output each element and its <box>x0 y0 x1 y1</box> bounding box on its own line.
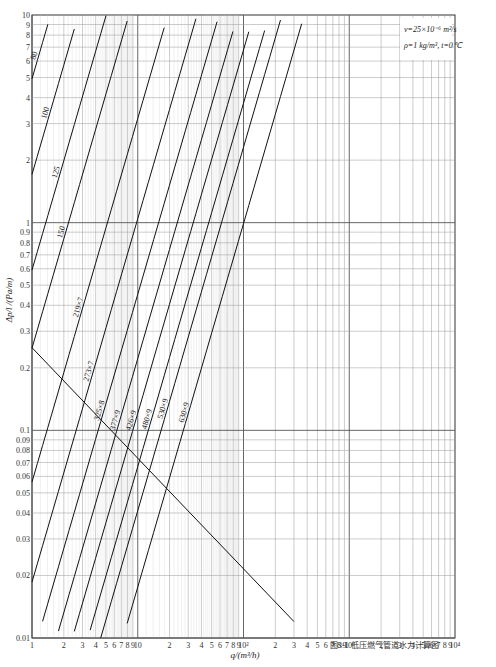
svg-text:6: 6 <box>112 641 116 650</box>
svg-text:5: 5 <box>315 641 319 650</box>
svg-text:0.7: 0.7 <box>20 251 30 260</box>
svg-text:0.06: 0.06 <box>16 472 30 481</box>
svg-text:4: 4 <box>305 641 309 650</box>
svg-text:ρ=1 kg/m³, t=0℃: ρ=1 kg/m³, t=0℃ <box>403 41 463 50</box>
svg-text:10: 10 <box>22 11 30 20</box>
svg-text:8: 8 <box>26 31 30 40</box>
svg-text:8: 8 <box>126 641 130 650</box>
svg-text:3: 3 <box>186 641 190 650</box>
svg-text:8: 8 <box>443 641 447 650</box>
svg-text:2: 2 <box>168 641 172 650</box>
svg-text:1: 1 <box>30 641 34 650</box>
pipe-lines <box>32 16 302 638</box>
svg-text:2: 2 <box>62 641 66 650</box>
svg-text:0.03: 0.03 <box>16 535 30 544</box>
condition-note: ν=25×10⁻⁶ m²/s ρ=1 kg/m³, t=0℃ <box>400 18 463 60</box>
x-axis-label: q/(m³/h) <box>230 650 259 660</box>
figure-caption: 图3-1 低压燃气管道水力计算图 <box>330 640 439 650</box>
svg-text:4: 4 <box>26 94 30 103</box>
svg-text:4: 4 <box>94 641 98 650</box>
pipe-label: 125 <box>50 165 62 179</box>
svg-text:5: 5 <box>210 641 214 650</box>
svg-text:0.07: 0.07 <box>16 459 30 468</box>
pipe-label: 100 <box>39 106 51 120</box>
svg-text:3: 3 <box>26 120 30 129</box>
svg-text:ν=25×10⁻⁶ m²/s: ν=25×10⁻⁶ m²/s <box>404 25 457 34</box>
svg-text:6: 6 <box>26 57 30 66</box>
svg-text:0.4: 0.4 <box>20 301 30 310</box>
hydraulic-chart: 80100125150219×7273×7325×8377×9426×9480×… <box>0 0 496 667</box>
svg-text:6: 6 <box>218 641 222 650</box>
svg-text:10: 10 <box>134 641 142 650</box>
svg-text:1: 1 <box>26 219 30 228</box>
pipe-label: 150 <box>55 225 67 239</box>
y-axis-label: Δp/l /(Pa/m) <box>4 278 14 324</box>
svg-text:0.2: 0.2 <box>20 364 30 373</box>
pipe-line-labels: 80100125150219×7273×7325×8377×9426×9480×… <box>29 50 191 431</box>
svg-text:5: 5 <box>104 641 108 650</box>
svg-text:10⁴: 10⁴ <box>450 641 461 650</box>
svg-text:0.01: 0.01 <box>16 634 30 643</box>
chart-grid <box>32 15 455 638</box>
y-axis-ticks: 109876543210.90.80.70.60.50.40.30.20.10.… <box>16 11 30 643</box>
svg-text:0.1: 0.1 <box>20 426 30 435</box>
svg-text:7: 7 <box>225 641 229 650</box>
svg-text:0.9: 0.9 <box>20 228 30 237</box>
svg-text:6: 6 <box>324 641 328 650</box>
svg-text:3: 3 <box>292 641 296 650</box>
svg-text:0.3: 0.3 <box>20 327 30 336</box>
svg-text:10²: 10² <box>238 641 249 650</box>
svg-text:7: 7 <box>26 43 30 52</box>
svg-text:0.8: 0.8 <box>20 239 30 248</box>
svg-text:7: 7 <box>119 641 123 650</box>
svg-text:3: 3 <box>80 641 84 650</box>
svg-text:0.08: 0.08 <box>16 446 30 455</box>
svg-text:2: 2 <box>26 156 30 165</box>
svg-text:0.02: 0.02 <box>16 571 30 580</box>
svg-text:9: 9 <box>26 21 30 30</box>
svg-text:5: 5 <box>26 74 30 83</box>
svg-text:0.6: 0.6 <box>20 265 30 274</box>
svg-text:4: 4 <box>199 641 203 650</box>
svg-text:0.5: 0.5 <box>20 281 30 290</box>
svg-text:0.09: 0.09 <box>16 436 30 445</box>
svg-text:8: 8 <box>231 641 235 650</box>
svg-text:2: 2 <box>273 641 277 650</box>
svg-text:0.04: 0.04 <box>16 509 30 518</box>
svg-text:0.05: 0.05 <box>16 489 30 498</box>
